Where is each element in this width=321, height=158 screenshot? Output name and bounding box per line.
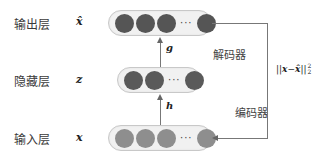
encoder-arrow-line xyxy=(160,99,161,125)
encoder-label: 编码器 xyxy=(235,104,268,120)
encoder-function-label: h xyxy=(166,100,173,111)
arrow-up-icon xyxy=(157,37,163,43)
hidden-node xyxy=(124,71,143,90)
norm-close: || xyxy=(300,64,306,74)
output-node xyxy=(136,14,155,33)
ellipsis: ··· xyxy=(180,133,193,143)
loss-line-bottom xyxy=(218,138,268,139)
hidden-node xyxy=(145,71,164,90)
hidden-node xyxy=(185,71,204,90)
input-node xyxy=(115,129,134,148)
reconstruction-loss: ||x−x̂||22 xyxy=(276,63,311,75)
output-variable: x̂ xyxy=(76,15,83,28)
input-node xyxy=(157,129,176,148)
decoder-arrow-line xyxy=(160,42,161,67)
hidden-layer-nodes: ··· xyxy=(117,67,201,93)
hidden-variable: z xyxy=(76,73,82,86)
input-node xyxy=(136,129,155,148)
arrow-up-icon xyxy=(157,94,163,100)
input-layer-label: 输入层 xyxy=(14,130,50,147)
loss-minus: − xyxy=(287,64,295,74)
ellipsis: ··· xyxy=(168,75,181,85)
loss-subscript: 2 xyxy=(307,69,311,75)
output-layer-nodes: ··· xyxy=(108,10,212,36)
output-node xyxy=(115,14,134,33)
input-variable: x xyxy=(76,131,83,144)
decoder-label: 解码器 xyxy=(213,46,246,62)
hidden-layer-label: 隐藏层 xyxy=(14,72,50,89)
input-layer-nodes: ··· xyxy=(108,125,212,151)
output-layer-label: 输出层 xyxy=(14,15,50,32)
decoder-function-label: g xyxy=(166,42,173,53)
loss-line-top xyxy=(212,23,268,24)
ellipsis: ··· xyxy=(180,18,193,28)
arrow-left-icon xyxy=(212,135,218,141)
loss-line-right xyxy=(267,23,268,138)
output-node xyxy=(157,14,176,33)
